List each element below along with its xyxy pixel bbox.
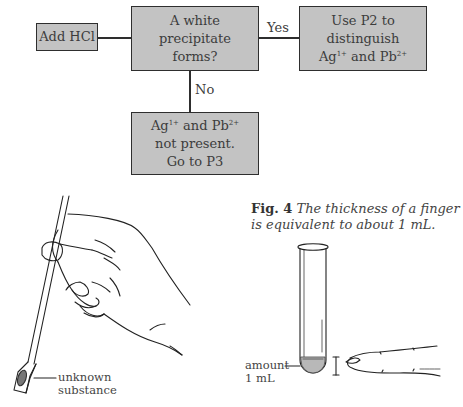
illustrations-canvas: [0, 0, 463, 407]
finger-bottom-edge: [348, 358, 441, 376]
hand-palm-contour: [104, 314, 182, 355]
finger-illustration: [346, 346, 440, 376]
finger-nail-2: [75, 298, 99, 308]
amount-label-line2: 1 mL: [245, 372, 289, 385]
amount-label: amount 1 mL: [245, 359, 289, 385]
spatula-rod-right: [34, 196, 69, 364]
spatula-rod-left: [28, 196, 63, 362]
unknown-substance-label: unknown substance: [58, 371, 117, 397]
test-tube-rim: [298, 244, 328, 250]
hand-with-spatula-illustration: [14, 196, 190, 393]
fingernail: [346, 358, 360, 363]
test-tube-illustration: [285, 244, 339, 375]
finger-top-edge: [350, 346, 437, 358]
hand-back-contour: [68, 214, 190, 305]
unknown-substance-label-line2: substance: [58, 384, 117, 397]
